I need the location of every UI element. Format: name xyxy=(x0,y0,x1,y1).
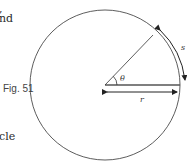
angle-arc xyxy=(113,76,117,85)
circle-diagram: θ r s xyxy=(0,0,195,168)
arc-length-arrow xyxy=(160,30,185,80)
textbook-page: , nd cle Fig. 51 θ r s xyxy=(0,0,195,168)
arc-length-symbol: s xyxy=(181,43,185,52)
slanted-radius xyxy=(105,35,153,85)
theta-symbol: θ xyxy=(120,74,125,83)
radius-symbol: r xyxy=(140,95,145,104)
